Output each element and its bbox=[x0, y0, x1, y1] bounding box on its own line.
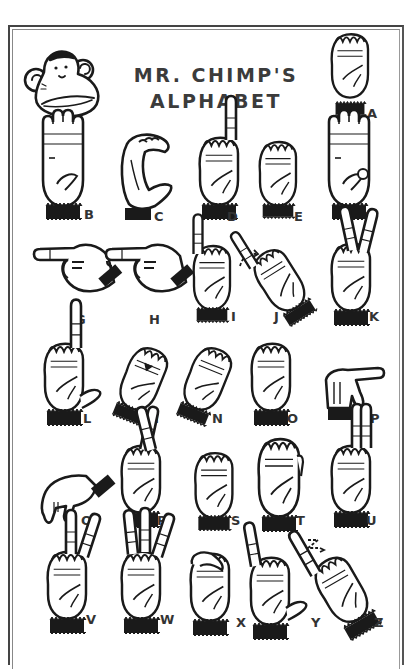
hand-sign-x-icon bbox=[184, 552, 240, 638]
title-line-1: MR. CHIMP'S bbox=[118, 62, 314, 88]
letter-label-n: N bbox=[212, 412, 223, 425]
letter-label-j: J bbox=[274, 310, 279, 323]
hand-sign-z-icon bbox=[302, 536, 378, 640]
hand-sign-n-icon bbox=[174, 356, 232, 426]
letter-label-c: C bbox=[154, 210, 164, 223]
letter-label-l: L bbox=[83, 412, 91, 425]
letter-label-t: T bbox=[296, 514, 305, 527]
hand-sign-b-icon bbox=[40, 128, 86, 224]
letter-label-e: E bbox=[294, 210, 303, 223]
hand-sign-l-icon bbox=[42, 330, 104, 428]
letter-label-k: K bbox=[369, 310, 379, 323]
hand-sign-k-icon bbox=[328, 230, 374, 324]
hand-sign-c-icon bbox=[115, 130, 177, 224]
letter-label-h: H bbox=[149, 313, 160, 326]
letter-label-x: X bbox=[236, 616, 246, 629]
letter-label-u: U bbox=[366, 514, 377, 527]
hand-sign-i-icon bbox=[190, 238, 234, 324]
poster-title: MR. CHIMP'S ALPHABET bbox=[118, 62, 314, 114]
letter-label-b: B bbox=[84, 208, 94, 221]
letter-label-d: D bbox=[227, 210, 238, 223]
letter-label-w: W bbox=[160, 613, 174, 626]
letter-label-z: Z bbox=[374, 616, 383, 629]
letter-label-s: S bbox=[231, 514, 240, 527]
letter-label-o: O bbox=[287, 412, 298, 425]
hand-sign-h-icon bbox=[104, 240, 186, 310]
letter-label-v: V bbox=[86, 613, 96, 626]
title-line-2: ALPHABET bbox=[118, 88, 314, 114]
